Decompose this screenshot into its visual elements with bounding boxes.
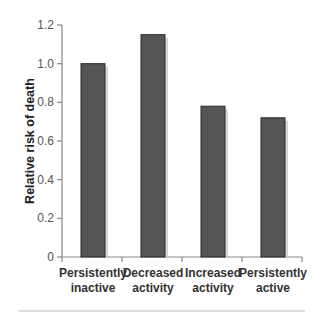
category-label: Persistently xyxy=(59,266,127,280)
x-axis xyxy=(62,257,302,262)
y-tick-label: 0.8 xyxy=(37,95,54,109)
category-label: activity xyxy=(132,281,174,295)
category-label: activity xyxy=(192,281,234,295)
y-axis-title: Relative risk of death xyxy=(23,78,37,204)
y-tick-label: 0.2 xyxy=(37,211,54,225)
category-labels: PersistentlyinactiveDecreasedactivityInc… xyxy=(59,266,307,295)
bar-persistently-inactive xyxy=(81,64,105,257)
y-tick-label: 0 xyxy=(47,250,54,264)
bar-persistently-active xyxy=(261,118,285,257)
y-tick-label: 1.2 xyxy=(37,18,54,32)
category-label: active xyxy=(256,281,290,295)
category-label: Decreased xyxy=(123,266,184,280)
y-tick-label: 1.0 xyxy=(37,57,54,71)
y-axis-title-text: Relative risk of death xyxy=(23,78,37,204)
category-label: Increased xyxy=(185,266,241,280)
y-tick-label: 0.4 xyxy=(37,173,54,187)
category-label: inactive xyxy=(71,281,116,295)
y-axis: 00.20.40.60.81.01.2 xyxy=(37,18,62,264)
y-tick-label: 0.6 xyxy=(37,134,54,148)
category-label: Persistently xyxy=(239,266,307,280)
bar-decreased-activity xyxy=(141,35,165,257)
bar-increased-activity xyxy=(201,106,225,257)
bars xyxy=(81,35,288,257)
bar-chart: Relative risk of death 00.20.40.60.81.01… xyxy=(0,0,320,314)
